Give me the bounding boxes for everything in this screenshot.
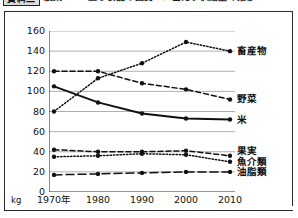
data-point <box>228 97 232 101</box>
data-point <box>184 116 188 120</box>
legend-label-3: 果実 <box>237 146 257 156</box>
y-axis-unit-label: kg <box>11 196 21 205</box>
data-point <box>228 154 232 158</box>
legend-label-5: 油脂類 <box>237 167 267 177</box>
y-axis-tick: 80 <box>33 107 45 117</box>
data-point <box>228 160 232 164</box>
data-point <box>96 150 100 154</box>
legend-label-0: 畜産物 <box>237 46 267 56</box>
document-header-strip: 資料二 農業 ―― 主な食品の国民一人当たり供給量の推移 <box>0 0 298 9</box>
data-point <box>96 100 100 104</box>
y-axis-tick-labels: 020406080100120140160 <box>5 31 45 201</box>
scan-edge <box>5 206 298 210</box>
data-point <box>228 170 232 174</box>
data-point <box>184 153 188 157</box>
header-title: 農業 ―― 主な食品の国民一人当たり供給量の推移 <box>44 0 255 2</box>
y-axis-tick: 40 <box>33 147 45 157</box>
data-point <box>228 49 232 53</box>
y-axis-tick: 120 <box>27 66 45 76</box>
data-point <box>140 152 144 156</box>
data-point <box>96 172 100 176</box>
y-axis-tick: 20 <box>33 167 45 177</box>
data-point <box>184 87 188 91</box>
data-point <box>184 170 188 174</box>
y-axis-tick: 100 <box>27 86 45 96</box>
series-line-0 <box>54 42 230 111</box>
x-axis-tick: 1990 <box>130 195 154 205</box>
data-point <box>52 148 56 152</box>
y-axis-tick: 140 <box>27 46 45 56</box>
x-axis-tick: 2000 <box>174 195 198 205</box>
chart-legend: 畜産物野菜米果実魚介類油脂類 <box>237 31 297 201</box>
data-point <box>184 40 188 44</box>
header-source-tag: 資料二 <box>3 0 40 6</box>
y-axis-tick: 60 <box>33 127 45 137</box>
figure-frame: 020406080100120140160 kg 1970年1980199020… <box>4 11 293 211</box>
data-point <box>52 173 56 177</box>
data-point <box>96 154 100 158</box>
y-axis-tick: 160 <box>27 26 45 36</box>
line-chart-svg <box>49 31 235 192</box>
x-axis-tick: 1970年 <box>37 195 71 205</box>
data-point <box>140 171 144 175</box>
plot-area <box>49 31 235 192</box>
legend-label-2: 米 <box>237 115 247 125</box>
chart-screenshot: 資料二 農業 ―― 主な食品の国民一人当たり供給量の推移 02040608010… <box>0 0 298 218</box>
data-point <box>52 84 56 88</box>
data-point <box>96 76 100 80</box>
data-point <box>52 155 56 159</box>
legend-label-1: 野菜 <box>237 94 257 104</box>
x-axis-tick: 1980 <box>86 195 110 205</box>
data-point <box>52 69 56 73</box>
data-point <box>140 61 144 65</box>
data-point <box>52 109 56 113</box>
data-point <box>140 111 144 115</box>
data-point <box>228 117 232 121</box>
data-point <box>96 69 100 73</box>
data-point <box>184 149 188 153</box>
data-point <box>140 81 144 85</box>
